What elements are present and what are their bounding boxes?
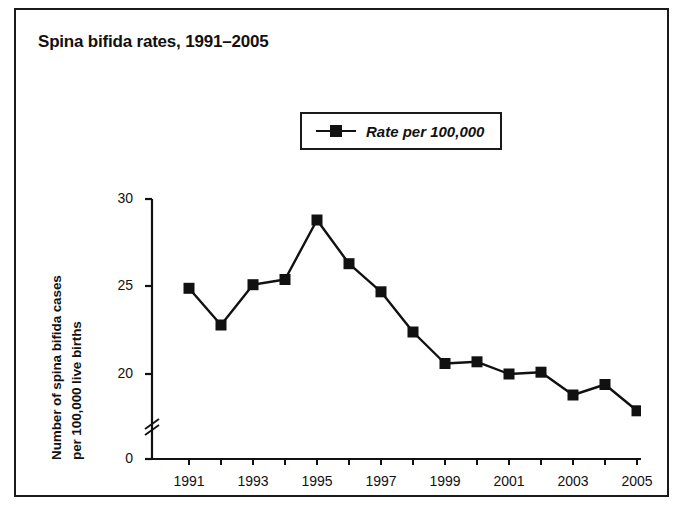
chart-legend: Rate per 100,000 (300, 112, 502, 150)
x-tick-label-1991: 1991 (159, 473, 219, 489)
chart-canvas (141, 195, 641, 465)
legend-item-label: Rate per 100,000 (366, 123, 484, 140)
legend-marker-square-icon (316, 124, 356, 138)
y-axis-label: Number of spina bifida cases per 100,000… (64, 192, 108, 460)
data-point-1996 (344, 258, 355, 269)
x-tick-label-2001: 2001 (479, 473, 539, 489)
data-point-2002 (536, 367, 547, 378)
x-axis (152, 459, 641, 465)
page-title: Spina bifida rates, 1991–2005 (38, 32, 268, 52)
data-point-1999 (440, 358, 451, 369)
x-tick-label-1995: 1995 (287, 473, 347, 489)
x-tick-label-1999: 1999 (415, 473, 475, 489)
data-point-2001 (504, 369, 515, 380)
figure-border: Spina bifida rates, 1991–2005 Rate per 1… (14, 8, 669, 497)
data-point-1993 (248, 279, 259, 290)
x-tick-label-1993: 1993 (223, 473, 283, 489)
data-point-1998 (408, 327, 419, 338)
data-point-1992 (216, 320, 227, 331)
data-markers-rate (184, 215, 642, 417)
y-tick-label-30: 30 (107, 190, 133, 206)
y-tick-label-0: 0 (107, 450, 133, 466)
y-axis-label-line-2: per 100,000 live births (69, 321, 84, 460)
plot-area: 30 25 20 0 1991 1993 1995 1997 1999 2001… (141, 195, 641, 465)
data-line-rate (189, 220, 637, 411)
x-tick-label-2005: 2005 (607, 473, 667, 489)
data-point-2005 (632, 405, 642, 416)
data-point-2003 (568, 390, 579, 401)
data-point-1994 (280, 274, 291, 285)
data-point-2000 (472, 356, 483, 367)
data-point-1997 (376, 286, 387, 297)
legend-item-rate: Rate per 100,000 (302, 114, 500, 148)
y-axis (145, 199, 159, 459)
data-point-1991 (184, 283, 195, 294)
data-point-1995 (312, 215, 323, 226)
x-tick-label-1997: 1997 (351, 473, 411, 489)
y-tick-label-20: 20 (107, 365, 133, 381)
y-tick-label-25: 25 (107, 277, 133, 293)
x-tick-label-2003: 2003 (543, 473, 603, 489)
data-point-2004 (600, 379, 611, 390)
y-axis-label-line-1: Number of spina bifida cases (49, 275, 64, 460)
